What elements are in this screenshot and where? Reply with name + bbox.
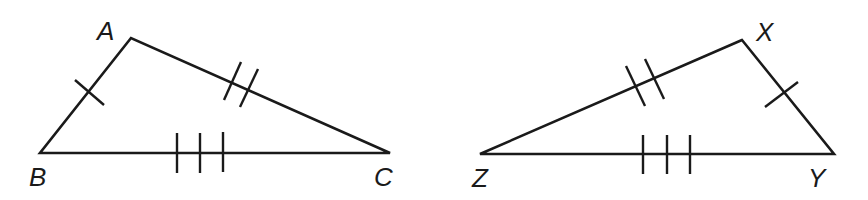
congruent-triangles-diagram: A B C X Y Z	[0, 0, 868, 200]
label-x: X	[755, 17, 775, 47]
label-a: A	[95, 16, 114, 46]
tick-xz-1	[626, 66, 645, 106]
triangle-xyz: X Y Z	[471, 17, 834, 193]
label-b: B	[29, 162, 46, 192]
triangle-xyz-outline	[480, 40, 834, 154]
label-c: C	[374, 162, 393, 192]
tick-xz-2	[645, 59, 664, 99]
label-y: Y	[808, 163, 827, 193]
triangle-abc: A B C	[29, 16, 393, 192]
label-z: Z	[471, 163, 489, 193]
